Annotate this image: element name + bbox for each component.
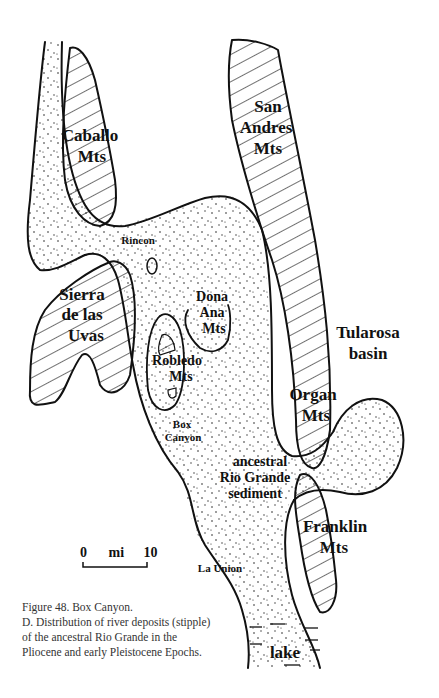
caballo-mountains: Caballo Mts xyxy=(62,47,119,226)
scale-bar-line xyxy=(83,562,147,567)
franklin-label-1: Franklin xyxy=(303,517,368,536)
robledo-label-1: Robledo xyxy=(152,353,202,368)
map-figure: Caballo Mts San Andres Mts Sierra de las… xyxy=(0,0,439,698)
franklin-label-2: Mts xyxy=(320,538,349,557)
dona-ana-label-1: Dona xyxy=(196,289,228,304)
robledo-label-2: Mts xyxy=(169,369,193,384)
scale-start: 0 xyxy=(80,545,87,560)
san-andres-label-2: Andres xyxy=(240,118,293,137)
caption-title: Figure 48. Box Canyon. xyxy=(22,600,262,615)
box-canyon-label-1: Box xyxy=(173,418,192,430)
tularosa-label-2: basin xyxy=(349,344,388,363)
caballo-label-2: Mts xyxy=(78,147,107,166)
sediment-label-3: sediment xyxy=(228,486,282,501)
organ-label-1: Organ xyxy=(289,385,337,404)
sierra-de-las-uvas: Sierra de las Uvas xyxy=(30,261,135,405)
sediment-label-2: Rio Grande xyxy=(220,470,290,485)
rincon-label: Rincon xyxy=(121,234,155,246)
tularosa-label-1: Tularosa xyxy=(336,323,400,342)
san-andres-label-1: San xyxy=(254,97,282,116)
caption-line-2: of the ancestral Rio Grande in the xyxy=(22,630,262,645)
caption-line-1: D. Distribution of river deposits (stipp… xyxy=(22,615,262,630)
box-canyon-label-2: Canyon xyxy=(165,431,202,443)
dona-ana-label-2: Ana xyxy=(200,305,225,320)
sierra-uvas-label-2: de las xyxy=(61,305,102,324)
dona-ana-label-3: Mts xyxy=(202,321,226,336)
sierra-uvas-label-1: Sierra xyxy=(59,285,105,304)
caption-line-3: Pliocene and early Pleistocene Epochs. xyxy=(22,645,262,660)
organ-label-2: Mts xyxy=(302,406,331,425)
figure-caption: Figure 48. Box Canyon. D. Distribution o… xyxy=(22,600,262,660)
san-andres-label-3: Mts xyxy=(254,139,283,158)
scale-unit: mi xyxy=(109,545,125,560)
caballo-label-1: Caballo xyxy=(62,126,119,145)
la-union-label: La Union xyxy=(198,562,242,574)
sierra-uvas-label-3: Uvas xyxy=(68,326,104,345)
sediment-label-1: ancestral xyxy=(233,454,288,469)
scale-bar: 0 mi 10 xyxy=(80,545,180,561)
lake-label: lake xyxy=(270,643,301,662)
scale-end: 10 xyxy=(144,545,158,560)
